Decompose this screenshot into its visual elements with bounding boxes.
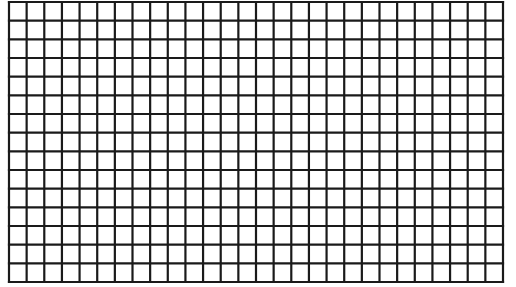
square-grid (0, 0, 516, 287)
grid-paper (0, 0, 516, 287)
